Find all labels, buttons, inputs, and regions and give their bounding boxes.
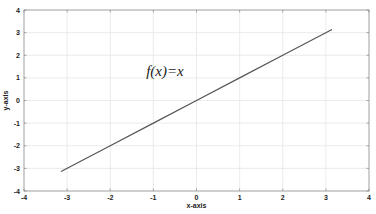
y-tick-label: -4 [14,188,20,195]
x-tick-label: -2 [107,194,113,201]
line-chart: -4-3-2-101234 -4-3-2-101234 f(x)=x x-axi… [0,0,376,214]
y-tick-label: 4 [16,7,20,14]
x-tick-labels: -4-3-2-101234 [21,194,371,201]
x-axis-label: x-axis [187,202,207,209]
y-tick-label: 3 [16,29,20,36]
y-tick-label: 0 [16,97,20,104]
x-tick-label: 3 [324,194,328,201]
y-axis-label: y-axis [2,90,10,110]
x-tick-label: 2 [281,194,285,201]
y-tick-label: -1 [14,120,20,127]
y-tick-label: 1 [16,74,20,81]
y-tick-label: -2 [14,142,20,149]
x-tick-label: -4 [21,194,27,201]
y-tick-label: -3 [14,165,20,172]
function-annotation: f(x)=x [146,63,184,80]
x-tick-label: 0 [195,194,199,201]
y-tick-labels: -4-3-2-101234 [14,7,20,195]
x-tick-label: 1 [238,194,242,201]
x-tick-label: 4 [367,194,371,201]
x-tick-label: -1 [150,194,156,201]
x-tick-label: -3 [64,194,70,201]
y-tick-label: 2 [16,52,20,59]
